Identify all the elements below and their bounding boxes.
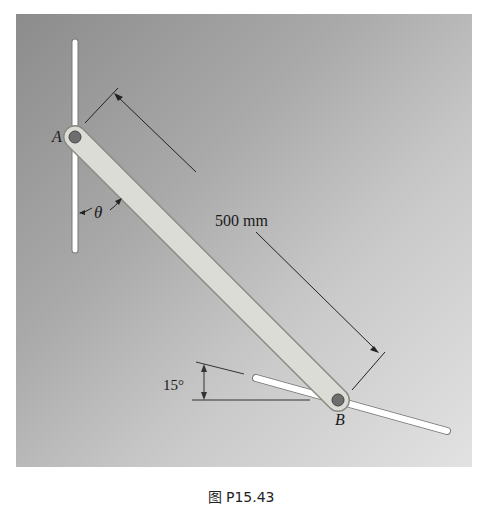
- pin-a: [69, 131, 81, 143]
- label-theta: θ: [94, 203, 102, 222]
- inclined-rod: [256, 378, 447, 431]
- figure-caption: 图 P15.43: [0, 486, 482, 506]
- link-ab: [75, 137, 338, 400]
- label-length: 500 mm: [215, 212, 268, 229]
- dimension-500mm: [85, 88, 385, 390]
- label-a: A: [51, 128, 62, 145]
- label-b: B: [335, 411, 345, 428]
- label-15deg: 15°: [163, 377, 184, 393]
- pin-b: [332, 394, 344, 406]
